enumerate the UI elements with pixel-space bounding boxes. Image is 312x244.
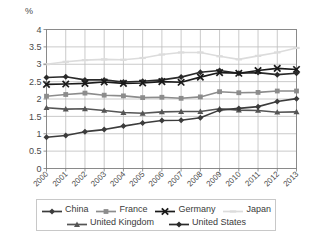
x-tick-label-2000: 2000 <box>31 169 50 188</box>
legend-row-1: China France Germany Japan <box>41 203 271 214</box>
x-tick-label-2010: 2010 <box>224 169 243 188</box>
series-japan <box>43 47 299 66</box>
chart-container: % 00.511.522.533.54 20002001200220032004… <box>0 0 312 244</box>
x-tick-label-2004: 2004 <box>108 169 127 188</box>
legend-swatch-germany <box>154 203 176 214</box>
x-tick-label-2008: 2008 <box>185 169 204 188</box>
y-axis-ticks: 00.511.522.533.54 <box>29 25 47 174</box>
y-tick-label-0.5: 0.5 <box>29 146 42 156</box>
x-tick-label-2011: 2011 <box>243 169 262 188</box>
y-tick-label-2.5: 2.5 <box>29 77 42 87</box>
line-chart: 00.511.522.533.54 2000200120022003200420… <box>0 0 312 196</box>
legend-item-france[interactable]: France <box>95 203 147 214</box>
legend-item-united-states[interactable]: United States <box>168 216 246 227</box>
legend-item-germany[interactable]: Germany <box>154 203 215 214</box>
y-tick-label-2: 2 <box>36 94 41 104</box>
legend-swatch-united-kingdom <box>66 216 88 227</box>
y-tick-label-3.5: 3.5 <box>29 42 42 52</box>
grid-layer <box>47 30 297 169</box>
x-tick-label-2006: 2006 <box>147 169 166 188</box>
y-tick-label-1: 1 <box>36 129 41 139</box>
series-layer <box>43 47 299 140</box>
legend-row-2: United Kingdom United States <box>41 216 271 227</box>
legend-swatch-france <box>95 203 117 214</box>
legend-item-united-kingdom[interactable]: United Kingdom <box>66 216 154 227</box>
y-tick-label-1.5: 1.5 <box>29 112 42 122</box>
chart-legend: China France Germany Japan United Kingdo… <box>36 199 276 231</box>
legend-item-japan[interactable]: Japan <box>222 203 271 214</box>
x-tick-label-2013: 2013 <box>281 169 300 188</box>
x-tick-label-2002: 2002 <box>70 169 89 188</box>
series-germany <box>43 65 299 87</box>
legend-swatch-china <box>41 203 63 214</box>
x-tick-label-2003: 2003 <box>89 169 108 188</box>
x-axis-ticks: 2000200120022003200420052006200720082009… <box>31 169 300 189</box>
legend-swatch-japan <box>222 203 244 214</box>
y-tick-label-3: 3 <box>36 59 41 69</box>
legend-label-united-states: United States <box>192 217 246 227</box>
legend-swatch-united-states <box>168 216 190 227</box>
legend-label-united-kingdom: United Kingdom <box>90 217 154 227</box>
x-tick-label-2009: 2009 <box>205 169 224 188</box>
x-tick-label-2012: 2012 <box>262 169 281 188</box>
legend-label-japan: Japan <box>246 204 271 214</box>
legend-item-china[interactable]: China <box>41 203 89 214</box>
legend-label-france: France <box>119 204 147 214</box>
x-tick-label-2005: 2005 <box>128 169 147 188</box>
y-tick-label-4: 4 <box>36 25 41 35</box>
x-tick-label-2007: 2007 <box>166 169 185 188</box>
legend-label-germany: Germany <box>178 204 215 214</box>
legend-label-china: China <box>65 204 89 214</box>
x-tick-label-2001: 2001 <box>51 169 70 188</box>
